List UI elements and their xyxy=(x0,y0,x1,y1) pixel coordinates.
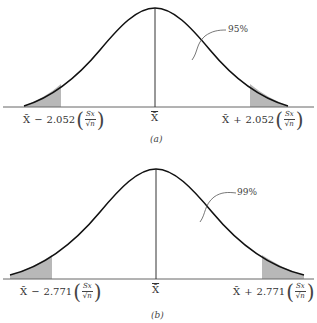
mean-symbol: X̄ xyxy=(233,286,240,297)
paren-open: ( xyxy=(73,283,81,301)
upper-bound-label-b: X̄ + 2.771 ( Sx √n ) xyxy=(233,282,315,301)
coefficient: 2.052 xyxy=(246,114,275,125)
coefficient: 2.771 xyxy=(44,286,73,297)
right-tail-shade-b xyxy=(262,255,304,279)
paren-close: ) xyxy=(307,283,315,301)
operator: − xyxy=(34,114,42,125)
paren-close: ) xyxy=(94,283,102,301)
upper-bound-label-a: X̄ + 2.052 ( Sx √n ) xyxy=(222,110,304,129)
center-label-b: X̄ xyxy=(152,284,159,295)
operator: + xyxy=(233,114,241,125)
paren-open: ( xyxy=(286,283,294,301)
coefficient: 2.052 xyxy=(47,114,76,125)
fraction: Sx √n xyxy=(295,282,306,301)
figure-a-plot xyxy=(3,8,314,107)
mean-symbol: X̄ xyxy=(20,286,27,297)
fraction: Sx √n xyxy=(85,110,96,129)
paren-open: ( xyxy=(275,111,283,129)
mean-symbol: X̄ xyxy=(222,114,229,125)
mean-symbol: X̄ xyxy=(23,114,30,125)
figure-b-plot xyxy=(3,169,314,279)
center-label-a: X̄ xyxy=(151,112,158,123)
leader-line-b xyxy=(200,192,236,222)
caption-a: (a) xyxy=(150,134,162,144)
fraction: Sx √n xyxy=(284,110,295,129)
paren-close: ) xyxy=(97,111,105,129)
operator: − xyxy=(31,286,39,297)
area-label-a: 95% xyxy=(228,24,248,34)
lower-bound-label-b: X̄ − 2.771 ( Sx √n ) xyxy=(20,282,102,301)
paren-close: ) xyxy=(296,111,304,129)
paren-open: ( xyxy=(76,111,84,129)
normal-curve-a xyxy=(24,8,288,106)
caption-b: (b) xyxy=(151,310,164,320)
fraction: Sx √n xyxy=(82,282,93,301)
coefficient: 2.771 xyxy=(257,286,286,297)
operator: + xyxy=(244,286,252,297)
normal-curve-b xyxy=(10,169,304,275)
normal-curves-diagram xyxy=(0,0,317,323)
lower-bound-label-a: X̄ − 2.052 ( Sx √n ) xyxy=(23,110,105,129)
area-label-b: 99% xyxy=(237,187,257,197)
